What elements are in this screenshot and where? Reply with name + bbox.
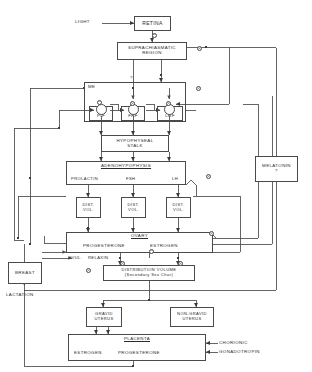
- melatonin-question-mark: ?: [275, 169, 278, 174]
- distribution-volume-block[interactable]: DISTRIBUTION VOLUME (Secondary Sex Char): [103, 265, 195, 281]
- placenta-progesterone-label: PROGESTERONE: [118, 350, 160, 355]
- ovary-label: OVARY: [131, 234, 148, 239]
- gravid-uterus-line2: UTERUS: [94, 317, 113, 322]
- estrogen-label: ESTROGEN: [150, 243, 178, 248]
- dist-vol-block-1[interactable]: DIST. VOL.: [76, 197, 101, 218]
- hypophyseal-stalk-block[interactable]: HYPOPHYSEAL STALK: [101, 135, 169, 152]
- me-label: ME: [88, 85, 95, 90]
- placenta-block[interactable]: PLACENTA: [68, 334, 206, 361]
- breast-label: BREAST: [15, 271, 35, 276]
- progesterone-label: PROGESTERONE: [83, 243, 125, 248]
- non-gravid-uterus-block[interactable]: NON-GRAVID UTERUS: [170, 307, 214, 327]
- lh-label: LH: [172, 176, 178, 181]
- melatonin-block[interactable]: MELATONIN ?: [255, 156, 298, 182]
- light-input-label: LIGHT: [75, 19, 90, 24]
- suprachiasmatic-region-block[interactable]: SUPRACHIASMATIC REGION: [117, 42, 187, 60]
- adenohypophysis-label: ADENOHYPOPHYSIS: [101, 164, 151, 169]
- ovul-label: OVUL.: [68, 255, 82, 260]
- retina-block[interactable]: RETINA: [134, 16, 171, 31]
- placenta-label: PLACENTA: [124, 337, 150, 342]
- prolactin-label: PROLACTIN: [71, 176, 98, 181]
- non-gravid-uterus-line2: UTERUS: [182, 317, 201, 322]
- chorionic-label: CHORIONIC: [219, 340, 248, 345]
- dist-vol-1-line2: VOL.: [83, 208, 94, 213]
- distribution-volume-line2: (Secondary Sex Char): [125, 273, 174, 278]
- dist-vol-2-line2: VOL.: [128, 208, 139, 213]
- lactation-label: LACTATION: [6, 292, 34, 297]
- fsh-label: FSH: [126, 176, 135, 181]
- suprachiasmatic-question-mark: ?: [130, 75, 133, 80]
- hypophyseal-label-line2: STALK: [127, 144, 143, 149]
- retina-label: RETINA: [142, 21, 163, 27]
- gravid-uterus-block[interactable]: GRAVID UTERUS: [86, 307, 122, 327]
- adenohypophysis-block[interactable]: ADENOHYPOPHYSIS: [66, 161, 186, 185]
- suprachiasmatic-label-line2: REGION: [142, 51, 162, 56]
- dist-vol-3-line2: VOL.: [173, 208, 184, 213]
- placenta-estrogen-label: ESTROGEN: [74, 350, 102, 355]
- dist-vol-block-2[interactable]: DIST. VOL.: [121, 197, 146, 218]
- relaxin-label: RELAXIN: [88, 255, 108, 260]
- endocrine-block-diagram: LIGHT RETINA SUPRACHIASMATIC REGION ? ME…: [0, 0, 312, 372]
- gonadotropin-label: GONADOTROPIN: [219, 349, 260, 354]
- pif-summing-junction: [96, 104, 107, 115]
- breast-block[interactable]: BREAST: [8, 262, 42, 284]
- dist-vol-block-3[interactable]: DIST. VOL.: [166, 197, 191, 218]
